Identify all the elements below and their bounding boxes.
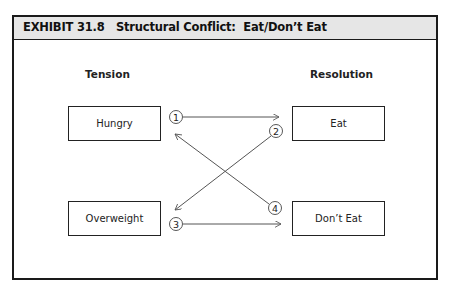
number-label-1: 1 — [173, 112, 179, 123]
arrow-4 — [175, 134, 269, 204]
number-label-3: 3 — [173, 219, 179, 230]
number-label-2: 2 — [273, 126, 279, 137]
number-label-4: 4 — [272, 203, 278, 214]
arrow-2 — [175, 136, 271, 210]
connections: 1 2 3 4 — [0, 0, 450, 294]
